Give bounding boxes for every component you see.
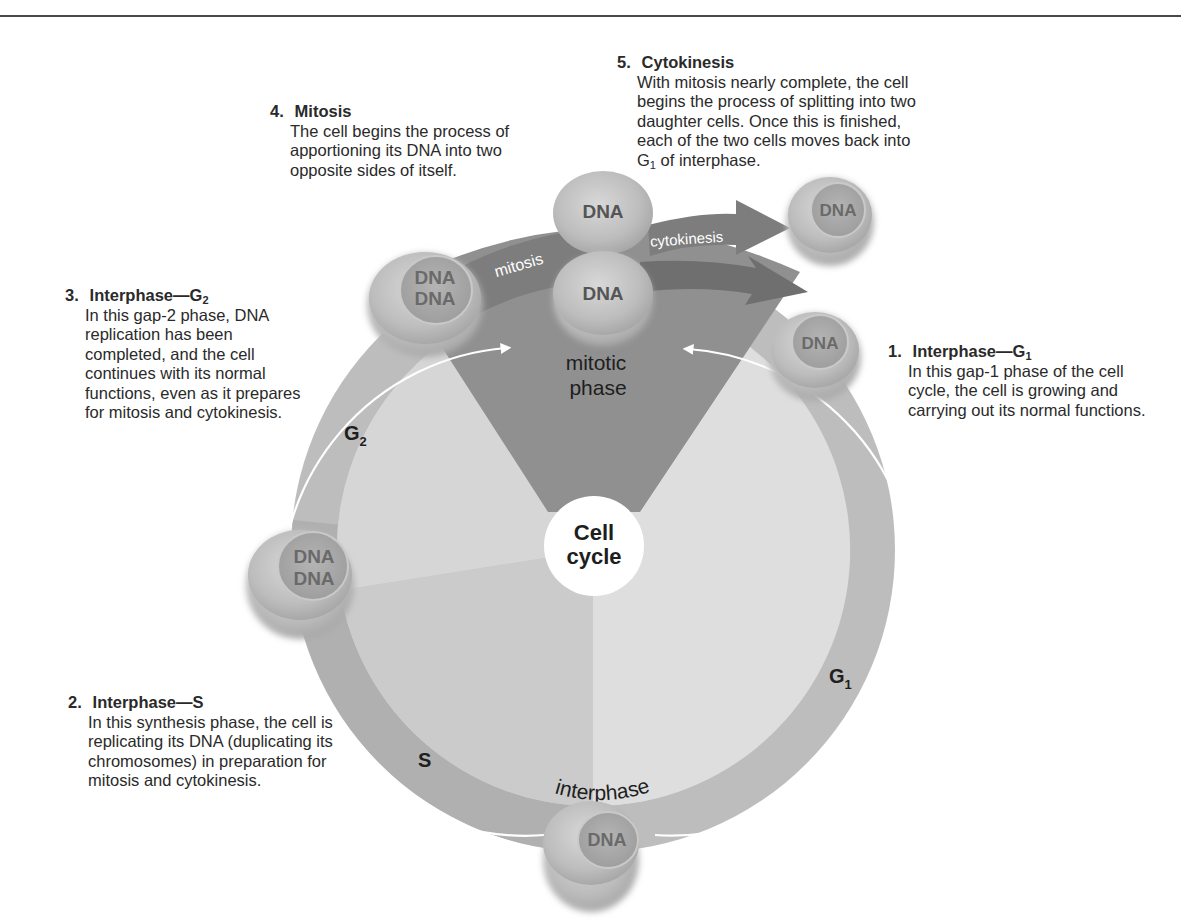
mitotic-label-line1: mitotic <box>566 351 627 374</box>
callout-cytokinesis-body: With mitosis nearly complete, the cell b… <box>637 73 927 171</box>
cell-g2-late: DNA DNA <box>367 252 483 357</box>
svg-text:DNA: DNA <box>414 267 455 288</box>
svg-text:DNA: DNA <box>802 334 839 353</box>
svg-text:DNA: DNA <box>820 201 857 220</box>
svg-text:DNA: DNA <box>588 830 627 850</box>
s-sector <box>340 550 593 806</box>
svg-text:DNA: DNA <box>582 201 623 222</box>
callout-g1-body: In this gap-1 phase of the cell cycle, t… <box>908 362 1148 421</box>
callout-interphase-g1: 1. Interphase—G1 In this gap-1 phase of … <box>908 342 1148 420</box>
callout-mitosis-body: The cell begins the process of apportion… <box>290 122 530 181</box>
svg-text:DNA: DNA <box>293 568 334 589</box>
center-label-line2: cycle <box>566 544 621 569</box>
cell-dividing-top: DNA <box>553 171 653 255</box>
cell-daughter: DNA <box>786 177 874 266</box>
svg-text:DNA: DNA <box>582 283 623 304</box>
callout-interphase-s: 2. Interphase—S In this synthesis phase,… <box>88 693 338 791</box>
callout-s-body: In this synthesis phase, the cell is rep… <box>88 713 338 791</box>
callout-interphase-g2: 3. Interphase—G2 In this gap-2 phase, DN… <box>85 286 305 423</box>
callout-s-heading: 2. Interphase—S <box>88 693 338 713</box>
svg-text:DNA: DNA <box>414 288 455 309</box>
callout-g1-heading: 1. Interphase—G1 <box>908 342 1148 362</box>
cell-dividing-bottom: DNA <box>553 251 653 346</box>
cell-s: DNA <box>543 801 639 912</box>
callout-mitosis: 4. Mitosis The cell begins the process o… <box>290 102 530 180</box>
cell-g2-early: DNA DNA <box>246 530 354 639</box>
svg-text:DNA: DNA <box>293 546 334 567</box>
cell-g1: DNA <box>769 312 861 401</box>
callout-g2-heading: 3. Interphase—G2 <box>85 286 305 306</box>
callout-cytokinesis-heading: 5. Cytokinesis <box>637 53 927 73</box>
mitotic-label-line2: phase <box>569 376 626 399</box>
callout-g2-body: In this gap-2 phase, DNA replication has… <box>85 306 305 423</box>
center-label-line1: Cell <box>574 520 614 545</box>
callout-cytokinesis: 5. Cytokinesis With mitosis nearly compl… <box>637 53 927 170</box>
callout-mitosis-heading: 4. Mitosis <box>290 102 530 122</box>
s-ring-label: S <box>418 749 431 771</box>
